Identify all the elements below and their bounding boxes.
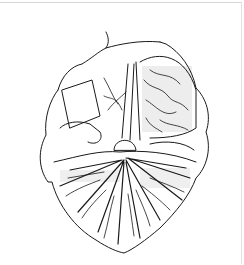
anatomical-illustration: [0, 0, 244, 265]
